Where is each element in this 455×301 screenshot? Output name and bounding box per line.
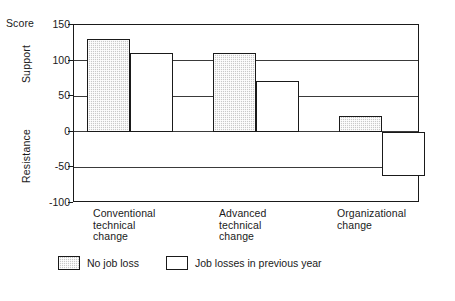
x-axis-label-1: Advanced technical change [219, 208, 267, 243]
legend-label-0: No job loss [87, 257, 139, 269]
gridline--50 [74, 167, 418, 168]
plot-area [73, 24, 419, 202]
legend-swatch-open [166, 256, 188, 270]
y-tick-label-50: 50 [24, 90, 70, 100]
legend-label-1: Job losses in previous year [195, 257, 322, 269]
bar-group-2-series-1 [382, 132, 425, 176]
y-tick-label--50: -50 [24, 161, 70, 171]
legend-swatch-shaded [58, 256, 80, 270]
bar-group-0-series-1 [130, 53, 173, 131]
y-tick-label--100: -100 [24, 197, 70, 207]
legend-item-0[interactable]: No job loss [58, 256, 139, 270]
legend-item-1[interactable]: Job losses in previous year [166, 256, 322, 270]
chart-legend: No job lossJob losses in previous year [58, 256, 322, 270]
x-axis-label-0: Conventional technical change [93, 208, 156, 243]
bar-group-0-series-0 [87, 39, 130, 132]
bar-group-2-series-0 [339, 116, 382, 132]
bar-group-1-series-1 [256, 81, 299, 132]
y-tick-mark--100 [68, 202, 73, 203]
x-axis-label-2: Organizational change [337, 208, 406, 231]
bar-group-1-series-0 [213, 53, 256, 131]
y-tick-label-100: 100 [24, 55, 70, 65]
y-tick-label-0: 0 [24, 126, 70, 136]
y-tick-label-150: 150 [24, 19, 70, 29]
bar-chart-figure: Score Support Resistance 150100500-50-10… [0, 0, 455, 301]
